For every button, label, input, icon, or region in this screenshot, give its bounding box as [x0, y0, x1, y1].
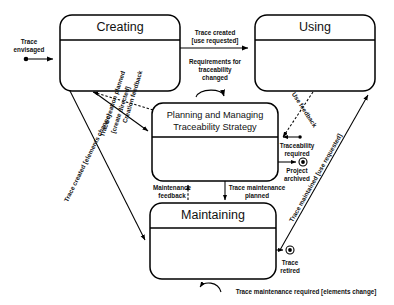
- final-node-trace-retired-core: [288, 248, 292, 252]
- edge-requirements-changed: [196, 90, 224, 97]
- edge-label-project-archived-line2: archived: [284, 175, 310, 182]
- transition-trace-created-use-requested: Trace created [use requested]: [180, 29, 248, 48]
- edge-label-trace-maint-required: Trace maintenance required [elements cha…: [236, 288, 377, 296]
- transition-trace-retired: Trace retired: [276, 246, 300, 274]
- state-maintaining-label: Maintaining: [181, 208, 245, 222]
- diagram-canvas: Creating Using Planning and Managing Tra…: [0, 0, 394, 305]
- transition-project-archived: Project archived: [278, 158, 310, 182]
- edge-label-traceability-required-line1: Traceability: [280, 142, 315, 150]
- edge-label-req-changed-line2: traceability: [198, 66, 232, 74]
- state-planning-label-line1: Planning and Managing: [167, 110, 264, 120]
- traceability-required-source-dot: [298, 135, 302, 139]
- edge-label-trace-envisaged-line1: Trace: [21, 38, 38, 45]
- transition-trace-maintenance-required: Trace maintenance required [elements cha…: [200, 283, 376, 296]
- state-creating-label: Creating: [96, 20, 143, 34]
- state-diagram: Creating Using Planning and Managing Tra…: [0, 0, 394, 305]
- state-planning[interactable]: Planning and Managing Traceability Strat…: [152, 103, 278, 181]
- edge-trace-maintenance-required: [200, 283, 221, 292]
- edge-label-maintenance-feedback-line1: Maintenance: [153, 184, 192, 191]
- final-node-project-archived-core: [301, 160, 305, 164]
- edge-label-trace-retired-line1: Trace: [282, 259, 299, 266]
- edge-label-trace-created-line2: [use requested]: [192, 37, 239, 45]
- transition-trace-maintenance-planned: Trace maintenance planned: [225, 181, 286, 200]
- initial-node-dot: [24, 57, 29, 62]
- edge-label-use-feedback: Use feedback: [291, 91, 319, 129]
- state-maintaining[interactable]: Maintaining: [150, 203, 276, 279]
- transition-maintenance-feedback: Maintenance feedback: [153, 184, 192, 200]
- transition-use-feedback: Use feedback: [283, 91, 319, 137]
- transition-requirements-changed: Requirements for traceability changed: [189, 58, 242, 97]
- transition-trace-created-elements-change: Trace created [elements change]: [62, 91, 145, 240]
- edge-label-trace-maint-planned-line1: Trace maintenance: [229, 184, 286, 191]
- edge-label-trace-created-line1: Trace created: [195, 29, 236, 36]
- edge-label-trace-retired-line2: retired: [280, 267, 300, 274]
- edge-label-trace-envisaged-line2: envisaged: [14, 46, 45, 54]
- state-using-label: Using: [299, 20, 331, 34]
- edge-label-maintenance-feedback-line2: feedback: [158, 192, 186, 199]
- state-planning-label-line2: Traceability Strategy: [173, 122, 257, 132]
- state-using[interactable]: Using: [255, 15, 375, 91]
- edge-label-traceability-required-line2: required: [284, 150, 309, 158]
- edge-label-req-changed-line3: changed: [202, 74, 228, 82]
- initial-state-node: Trace envisaged: [14, 38, 53, 62]
- edge-label-project-archived-line1: Project: [286, 167, 308, 175]
- edge-label-req-changed-line1: Requirements for: [189, 58, 242, 66]
- edge-label-trace-maint-planned-line2: planned: [245, 192, 269, 200]
- transition-traceability-required: Traceability required: [280, 135, 315, 157]
